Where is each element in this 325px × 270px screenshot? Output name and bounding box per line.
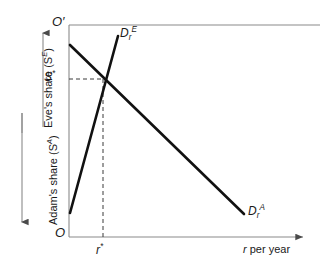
adam-demand-superscript: A xyxy=(259,203,264,212)
adam-share-axis-label: Adam's share (SA) xyxy=(45,135,59,225)
eve-demand-curve-label: DrE xyxy=(120,25,137,42)
eve-demand-base: D xyxy=(120,26,129,40)
eve-share-text: Eve's share (S xyxy=(42,57,54,128)
x-axis-label: r per year xyxy=(243,243,290,255)
adam-demand-base: D xyxy=(248,204,257,218)
eve-demand-superscript: E xyxy=(131,25,136,34)
x-axis-label-text: per year xyxy=(247,243,290,255)
adam-demand-subscript: r xyxy=(257,211,260,220)
eve-demand-subscript: r xyxy=(129,33,132,42)
equilibrium-rate-star: * xyxy=(100,242,103,251)
eve-share-superscript: E xyxy=(40,52,49,57)
economics-diagram: O′ O S* r* DrE DrA r per year Eve's shar… xyxy=(0,0,325,270)
adam-share-superscript: A xyxy=(45,139,54,144)
adam-share-text: Adam's share (S xyxy=(47,144,59,225)
adam-share-close: ) xyxy=(47,135,59,139)
adam-demand-curve-label: DrA xyxy=(248,203,265,220)
adam-demand-curve xyxy=(70,45,244,214)
eve-demand-curve xyxy=(70,36,118,213)
eve-share-axis-label: Eve's share (SE) xyxy=(40,48,54,128)
origin-bottom-label: O xyxy=(55,225,65,240)
origin-top-label: O′ xyxy=(52,14,65,29)
equilibrium-rate-label: r* xyxy=(96,242,103,257)
eve-share-close: ) xyxy=(42,48,54,52)
